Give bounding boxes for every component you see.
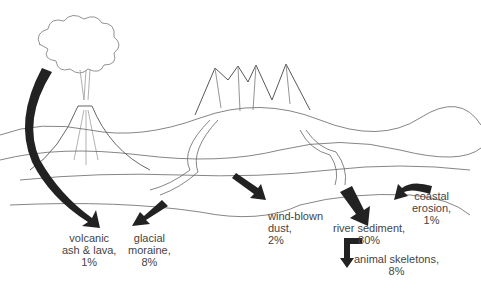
wind-label: wind-blown dust, 2% xyxy=(268,210,323,246)
glacial-arrow xyxy=(132,200,168,226)
wind-arrow xyxy=(232,173,266,200)
volcanic-label: volcanic ash & lava, 1% xyxy=(62,232,116,268)
glacial-label: glacial moraine, 8% xyxy=(128,232,171,268)
volcano xyxy=(30,106,150,170)
river-label: river sediment, 80% xyxy=(333,222,405,246)
eruption-cloud xyxy=(38,15,119,100)
coastal-label: coastal erosion, 1% xyxy=(412,190,451,226)
river-arrow xyxy=(340,186,370,226)
animal-label: animal skeletons, 8% xyxy=(354,253,439,277)
hills xyxy=(0,107,481,180)
river xyxy=(300,130,346,185)
